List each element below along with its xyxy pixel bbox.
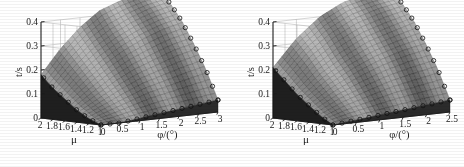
- figure-root: 00.10.20.30.421.81.61.41.2100.511.522.53…: [0, 0, 464, 167]
- mu-tick-label: 1.2: [314, 125, 326, 135]
- z-tick-label: 0.4: [258, 17, 270, 27]
- phi-tick-label: 2.5: [446, 114, 458, 124]
- phi-axis-label: φ/(°): [157, 129, 178, 141]
- phi-tick-label: 0.5: [352, 124, 364, 134]
- phi-tick-label: 2: [426, 116, 431, 126]
- plot-canvas: 00.10.20.30.421.81.61.41.2100.511.522.53…: [0, 0, 232, 167]
- mu-tick-label: 1.6: [290, 122, 302, 132]
- phi-tick-label: 0.5: [117, 124, 129, 134]
- phi-tick-label: 0: [333, 127, 338, 137]
- z-tick-label: 0.1: [258, 89, 270, 99]
- z-tick-label: 0.3: [26, 41, 38, 51]
- z-tick-label: 0.2: [26, 65, 38, 75]
- phi-tick-label: 2: [179, 118, 184, 128]
- mu-tick-label: 1.2: [82, 125, 94, 135]
- phi-tick-label: 1: [140, 122, 145, 132]
- phi-tick-label: 1: [379, 121, 384, 131]
- phi-tick-label: 1.5: [399, 119, 411, 129]
- phi-tick-label: 2.5: [195, 116, 207, 126]
- mu-axis-label: μ: [303, 133, 309, 145]
- z-tick-label: 0.1: [26, 89, 38, 99]
- z-tick-label: 0.4: [26, 17, 38, 27]
- mu-tick-label: 1.8: [46, 121, 58, 131]
- phi-tick-label: 3: [218, 114, 223, 124]
- z-tick-label: 0.3: [258, 41, 270, 51]
- mu-tick-label: 1.8: [278, 121, 290, 131]
- phi-tick-label: 0: [101, 127, 106, 137]
- z-tick-label: 0.2: [258, 65, 270, 75]
- mu-tick-label: 1.6: [58, 122, 70, 132]
- z-axis-label: t/s: [13, 67, 24, 77]
- mu-axis-label: μ: [71, 133, 77, 145]
- plot-canvas: 00.10.20.30.421.81.61.41.2100.511.522.5t…: [232, 0, 464, 167]
- phi-axis-label: φ/(°): [389, 129, 410, 141]
- z-axis-label: t/s: [245, 67, 256, 77]
- mu-tick-label: 2: [38, 120, 43, 130]
- surface-plot-right: 00.10.20.30.421.81.61.41.2100.511.522.5t…: [232, 0, 464, 167]
- surface-plot-left: 00.10.20.30.421.81.61.41.2100.511.522.53…: [0, 0, 232, 167]
- mu-tick-label: 2: [270, 120, 275, 130]
